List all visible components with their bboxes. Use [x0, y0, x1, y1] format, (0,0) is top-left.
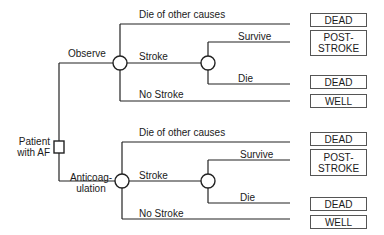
branch-anticoag-other: Die of other causes — [139, 127, 225, 138]
outcome-text: DEAD — [325, 134, 353, 145]
outcome-text-line1: POST- — [323, 152, 353, 163]
root-label-line1: Patient — [12, 136, 50, 147]
branch-observe-other: Die of other causes — [139, 9, 225, 20]
branch-observe-die: Die — [238, 73, 253, 84]
root-label-line2: with AF — [12, 147, 50, 158]
chance-node-anticoag-stroke — [201, 174, 215, 188]
outcome-observe-well: WELL — [310, 94, 367, 108]
strategy-anticoag-line2: ulation — [66, 183, 116, 194]
chance-node-observe — [113, 56, 127, 70]
outcome-text: DEAD — [325, 77, 353, 88]
root-label: Patient with AF — [12, 136, 50, 158]
outcome-text: WELL — [325, 96, 352, 107]
outcome-observe-survive: POST- STROKE — [310, 30, 367, 56]
branch-observe-stroke: Stroke — [139, 51, 168, 62]
chance-node-anticoag — [115, 174, 129, 188]
outcome-text-line1: POST- — [323, 32, 353, 43]
outcome-text-line2: STROKE — [318, 163, 359, 174]
outcome-anticoag-well: WELL — [310, 215, 367, 229]
strategy-observe-label: Observe — [68, 48, 106, 59]
outcome-text: DEAD — [325, 199, 353, 210]
branch-anticoag-stroke: Stroke — [139, 170, 168, 181]
branch-observe-no-stroke: No Stroke — [139, 89, 183, 100]
outcome-text: DEAD — [325, 15, 353, 26]
strategy-anticoag-label: Anticoag- ulation — [66, 172, 116, 194]
outcome-anticoag-die: DEAD — [310, 197, 367, 211]
outcome-text-line2: STROKE — [318, 43, 359, 54]
decision-node — [54, 141, 64, 153]
decision-tree-diagram: Patient with AF Observe Die of other cau… — [0, 0, 384, 235]
branch-anticoag-survive: Survive — [240, 149, 273, 160]
outcome-observe-die: DEAD — [310, 75, 367, 89]
branch-observe-survive: Survive — [238, 31, 271, 42]
outcome-text: WELL — [325, 217, 352, 228]
chance-node-observe-stroke — [201, 56, 215, 70]
strategy-anticoag-line1: Anticoag- — [66, 172, 116, 183]
outcome-anticoag-other: DEAD — [310, 132, 367, 146]
branch-anticoag-die: Die — [240, 192, 255, 203]
outcome-observe-other: DEAD — [310, 13, 367, 27]
branch-anticoag-no-stroke: No Stroke — [139, 208, 183, 219]
outcome-anticoag-survive: POST- STROKE — [310, 149, 367, 176]
